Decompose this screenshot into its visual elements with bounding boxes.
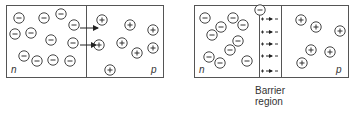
n-region-label: n (11, 64, 17, 75)
electron-icon (65, 56, 75, 66)
electron-icon (69, 20, 79, 30)
electron-icon (216, 22, 226, 32)
electron-icon (242, 56, 252, 66)
hole-icon (97, 15, 107, 25)
electron-icon (204, 52, 214, 62)
before-junction-panel: np (7, 5, 164, 78)
hole-icon (125, 20, 135, 30)
p-region-label: p (150, 64, 157, 75)
electron-icon (200, 13, 210, 23)
hole-icon (296, 15, 306, 25)
electron-icon (32, 56, 42, 66)
hole-icon (311, 22, 321, 32)
electron-icon (255, 5, 265, 15)
barrier-charge-row (261, 30, 278, 34)
electron-icon (238, 20, 248, 30)
electron-icon (207, 30, 217, 40)
electron-icon (48, 55, 58, 65)
electron-icon (68, 38, 78, 48)
electron-icon (233, 36, 243, 46)
electron-icon (39, 13, 49, 23)
hole-icon (148, 43, 158, 53)
hole-icon (132, 48, 142, 58)
barrier-charge-row (261, 69, 278, 73)
electron-icon (19, 51, 29, 61)
electron-icon (10, 29, 20, 39)
electron-icon (56, 9, 66, 19)
electron-icon (215, 58, 225, 68)
hole-icon (105, 65, 115, 75)
electron-icon (225, 45, 235, 55)
p-region-label: p (335, 64, 342, 75)
n-region-label: n (199, 64, 205, 75)
caption-line-2: region (255, 96, 315, 107)
hole-icon (148, 25, 158, 35)
barrier-charge-row (261, 54, 278, 58)
electron-icon (14, 13, 24, 23)
caption-line-1: Barrier (255, 85, 315, 96)
hole-icon (297, 58, 307, 68)
panel-frame (7, 6, 164, 78)
electron-icon (46, 35, 56, 45)
hole-icon (306, 45, 316, 55)
after-junction-panel: np (195, 5, 349, 78)
barrier-region-caption: Barrier region (255, 85, 315, 107)
hole-icon (335, 26, 345, 36)
electron-icon (26, 28, 36, 38)
barrier-charge-row (261, 42, 278, 46)
hole-icon (325, 47, 335, 57)
hole-icon (117, 38, 127, 48)
electron-icon (228, 13, 238, 23)
barrier-charge-row (261, 17, 278, 21)
